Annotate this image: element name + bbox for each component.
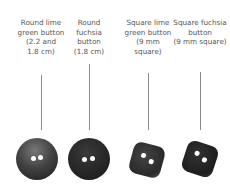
leader-line [41, 75, 42, 130]
label-square-lime: Square lime green button (9 mm square) [118, 18, 178, 56]
label-line: (1.8 cm) [59, 47, 119, 57]
label-line: Square lime [118, 18, 178, 28]
label-line: button [59, 37, 119, 47]
label-round-fuchsia: Round fuchsia button (1.8 cm) [59, 18, 119, 56]
label-line: button [170, 28, 230, 38]
button-hole [38, 155, 43, 160]
button-hole [82, 157, 87, 162]
square-fuchsia-button-image [180, 139, 220, 179]
button-hole [140, 152, 146, 158]
button-hole [31, 156, 36, 161]
label-line: (9 mm [118, 37, 178, 47]
label-line: (9 mm square) [170, 37, 230, 47]
leader-line [200, 72, 201, 130]
label-line: Round [59, 18, 119, 28]
label-line: green button [118, 28, 178, 38]
leader-line [89, 64, 90, 130]
leader-line [148, 73, 149, 130]
round-lime-button-image [16, 138, 58, 180]
button-hole [201, 157, 207, 163]
label-square-fuchsia: Square fuchsia button (9 mm square) [170, 18, 230, 47]
button-hole [194, 150, 200, 156]
round-fuchsia-button-image [68, 138, 110, 180]
label-line: Square fuchsia [170, 18, 230, 28]
button-hole [90, 156, 95, 161]
button-hole [148, 159, 154, 165]
square-lime-button-image [127, 140, 166, 179]
label-line: square) [118, 47, 178, 57]
label-line: fuchsia [59, 28, 119, 38]
